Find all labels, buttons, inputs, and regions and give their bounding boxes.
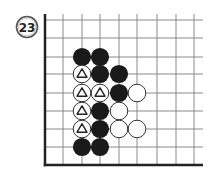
black-stone (110, 65, 128, 83)
black-stone (91, 65, 109, 83)
black-stone (91, 138, 109, 156)
white-stone (73, 120, 91, 138)
white-stone (73, 84, 91, 102)
stones-layer (73, 48, 146, 156)
black-stone (91, 102, 109, 120)
black-stone (73, 48, 91, 66)
badge-text: 23 (19, 21, 36, 35)
black-stone (110, 84, 128, 102)
white-stone (128, 120, 146, 138)
black-stone (91, 48, 109, 66)
white-stone (110, 120, 128, 138)
black-stone (91, 120, 109, 138)
problem-number-badge: 23 (17, 17, 38, 38)
white-stone (73, 102, 91, 120)
black-stone (73, 138, 91, 156)
white-stone (128, 84, 146, 102)
go-board: 23 (0, 0, 219, 175)
white-stone (91, 84, 109, 102)
white-stone (73, 65, 91, 83)
white-stone (110, 102, 128, 120)
